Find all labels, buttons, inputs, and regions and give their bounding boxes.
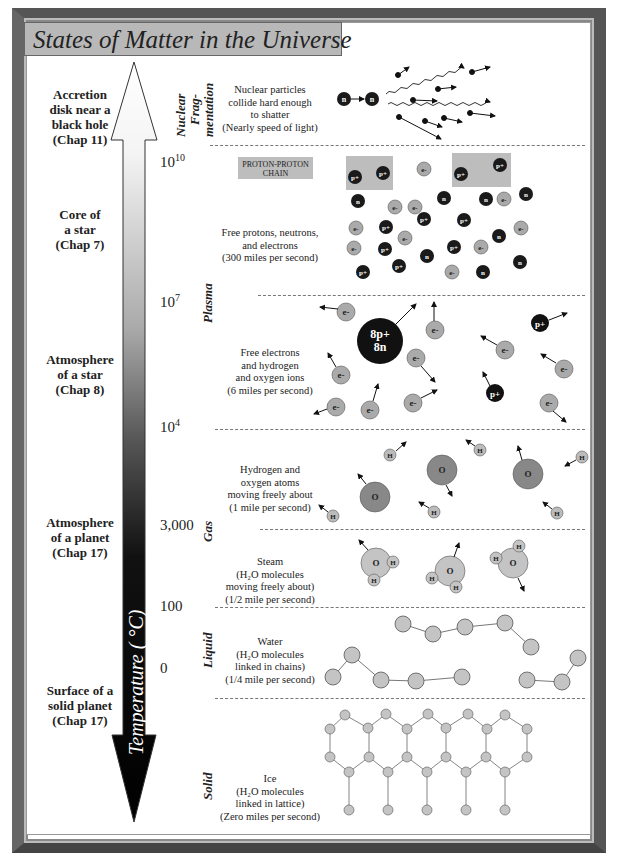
svg-text:e-: e- — [432, 325, 439, 335]
svg-text:n: n — [484, 196, 488, 204]
svg-text:p+: p+ — [381, 246, 389, 254]
svg-text:H: H — [431, 509, 437, 517]
svg-text:p+: p+ — [535, 319, 545, 329]
svg-text:e-: e- — [502, 345, 509, 355]
svg-text:e-: e- — [501, 196, 507, 204]
svg-text:e-: e- — [353, 225, 359, 233]
svg-text:n: n — [342, 95, 347, 104]
svg-text:e-: e- — [343, 307, 350, 317]
steam-molecules: OOO HH HH HH — [359, 540, 528, 593]
svg-text:H: H — [453, 584, 459, 592]
svg-text:H: H — [429, 575, 435, 583]
svg-text:O: O — [446, 566, 453, 576]
svg-text:p+: p+ — [457, 171, 465, 179]
svg-text:p+: p+ — [496, 162, 504, 170]
svg-text:p+: p+ — [359, 269, 367, 277]
svg-text:e-: e- — [421, 166, 427, 174]
svg-text:H: H — [390, 559, 396, 567]
svg-text:p+: p+ — [351, 174, 359, 182]
svg-text:H: H — [554, 510, 560, 518]
svg-text:e-: e- — [412, 204, 418, 212]
svg-text:e-: e- — [449, 269, 455, 277]
svg-text:8p+: 8p+ — [370, 327, 390, 341]
svg-text:e-: e- — [410, 398, 417, 408]
svg-text:n: n — [425, 253, 429, 261]
svg-text:e-: e- — [338, 370, 345, 380]
svg-text:n: n — [518, 259, 522, 267]
svg-text:e-: e- — [367, 405, 374, 415]
svg-text:H: H — [493, 555, 499, 563]
svg-text:O: O — [372, 558, 379, 568]
svg-text:n: n — [356, 198, 360, 206]
svg-text:e-: e- — [518, 225, 524, 233]
svg-text:p+: p+ — [490, 389, 500, 399]
svg-text:H: H — [387, 452, 393, 460]
svg-text:O: O — [438, 465, 445, 475]
svg-text:p+: p+ — [460, 217, 468, 225]
svg-text:e-: e- — [561, 364, 568, 374]
svg-text:p+: p+ — [379, 170, 387, 178]
water-chains — [325, 615, 586, 690]
svg-text:n: n — [524, 191, 528, 199]
particle-illustrations: n n — [0, 0, 619, 861]
svg-text:e-: e- — [351, 245, 357, 253]
svg-text:O: O — [371, 492, 378, 502]
svg-text:H: H — [579, 454, 585, 462]
svg-text:H: H — [330, 513, 336, 521]
core-plasma-particles: p+p+ p+p+ nn nn p+p+ p+n p+p+ np+ p+n n … — [347, 158, 533, 279]
svg-text:8n: 8n — [374, 340, 387, 354]
svg-text:e-: e- — [413, 353, 420, 363]
svg-text:p+: p+ — [420, 216, 428, 224]
svg-text:H: H — [477, 447, 483, 455]
svg-text:e-: e- — [392, 204, 398, 212]
svg-text:H: H — [516, 543, 522, 551]
svg-text:O: O — [524, 469, 531, 479]
svg-text:n: n — [370, 95, 375, 104]
atmosphere-star-particles: 8p+ 8n e-e- e-e- e-e- e-e- e-e- p+ p+ — [314, 302, 573, 422]
svg-text:n: n — [497, 233, 501, 241]
svg-text:p+: p+ — [382, 224, 390, 232]
svg-text:p+: p+ — [450, 244, 458, 252]
svg-text:n: n — [442, 195, 446, 203]
ice-lattice — [325, 709, 532, 815]
svg-text:p+: p+ — [395, 263, 403, 271]
svg-text:e-: e- — [402, 235, 408, 243]
svg-text:H: H — [371, 577, 377, 585]
svg-text:e-: e- — [546, 398, 553, 408]
gas-atoms: OOO HHH HHH — [319, 440, 588, 522]
svg-text:n: n — [481, 269, 485, 277]
nuclear-collision: n n — [337, 67, 495, 139]
svg-text:e-: e- — [333, 402, 340, 412]
svg-text:e-: e- — [478, 244, 484, 252]
svg-text:O: O — [509, 558, 516, 568]
